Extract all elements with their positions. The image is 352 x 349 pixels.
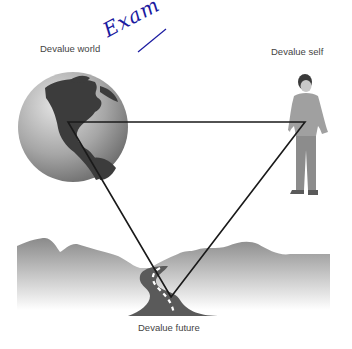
globe-icon: [18, 72, 128, 182]
person-icon: [288, 74, 328, 195]
label-devalue-future: Devalue future: [138, 322, 200, 333]
annotation-underline: [138, 29, 166, 52]
label-devalue-world: Devalue world: [40, 43, 100, 54]
label-devalue-self: Devalue self: [271, 46, 323, 57]
